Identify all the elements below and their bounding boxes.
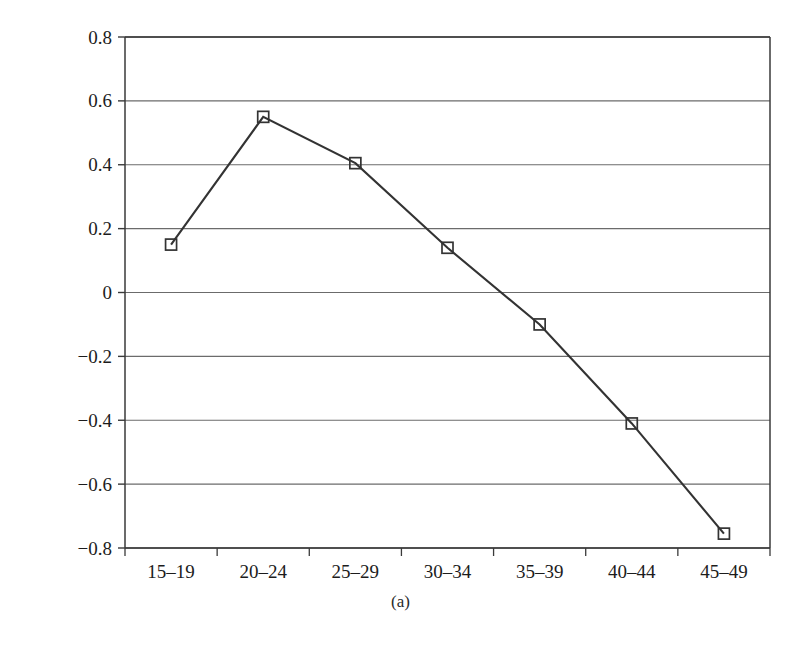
line-chart: 0.80.60.40.20−0.2−0.4−0.6−0.8 15–1920–24… xyxy=(0,0,801,600)
x-axis-tick-label: 25–29 xyxy=(332,561,380,582)
x-axis-tick-label: 15–19 xyxy=(147,561,195,582)
data-point-marker xyxy=(718,528,729,539)
figure-caption: (a) xyxy=(0,592,801,612)
x-axis-tick-label: 35–39 xyxy=(516,561,564,582)
x-axis-tick-label: 45–49 xyxy=(700,561,748,582)
x-axis-tick-label: 30–34 xyxy=(424,561,472,582)
data-point-marker xyxy=(350,158,361,169)
y-axis-tick-label: 0.2 xyxy=(88,218,112,239)
data-point-marker xyxy=(626,418,637,429)
data-point-marker xyxy=(258,111,269,122)
x-axis-tick-label: 40–44 xyxy=(608,561,656,582)
y-axis-tick-label: −0.2 xyxy=(78,346,112,367)
data-point-marker xyxy=(166,239,177,250)
figure-container: Logged Homicide Rate 0.80.60.40.20−0.2−0… xyxy=(0,0,801,648)
y-axis-tick-label: −0.4 xyxy=(78,410,113,431)
figure-caption-text: (a) xyxy=(391,592,410,612)
y-axis-tick-label: 0.8 xyxy=(88,27,112,48)
x-axis-tick-label: 20–24 xyxy=(239,561,287,582)
y-axis-tick-label: 0.6 xyxy=(88,90,112,111)
chart-background xyxy=(0,0,801,600)
y-axis-tick-label: 0.4 xyxy=(88,154,112,175)
y-axis-tick-label: −0.6 xyxy=(78,474,112,495)
data-point-marker xyxy=(442,242,453,253)
y-axis-tick-label: 0 xyxy=(103,282,113,303)
y-axis-tick-label: −0.8 xyxy=(78,538,112,559)
data-point-marker xyxy=(534,319,545,330)
